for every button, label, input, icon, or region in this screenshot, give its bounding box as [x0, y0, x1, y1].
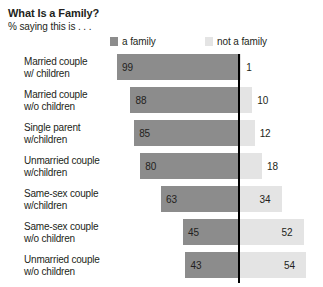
chart-container: What Is a Family? % saying this is . . .… — [0, 0, 323, 287]
bar-row: Same-sex couplew/o children4552 — [0, 219, 323, 245]
bar-row: Unmarried couplew/children8018 — [0, 153, 323, 179]
bar-value-not-a-family: 54 — [284, 260, 295, 271]
bar-not-a-family — [240, 120, 255, 146]
bar-row-label-line-2: w/children — [24, 166, 112, 178]
chart-subtitle: % saying this is . . . — [8, 21, 323, 33]
bar-row-label: Married couplew/o children — [0, 89, 112, 112]
bar-row-label: Unmarried couplew/o children — [0, 254, 112, 277]
bar-row: Married couplew/ children991 — [0, 54, 323, 80]
bar-row-label: Same-sex couplew/children — [0, 188, 112, 211]
legend-swatch-dark-icon — [110, 37, 118, 46]
bar-not-a-family — [240, 153, 262, 179]
bar-not-a-family — [240, 54, 241, 80]
bar-row-label-line-1: Single parent — [24, 122, 112, 134]
bar-value-a-family: 85 — [139, 128, 150, 139]
bar-row-label-line-1: Same-sex couple — [24, 221, 112, 233]
chart-title: What Is a Family? — [8, 7, 323, 20]
bar-a-family — [130, 87, 238, 113]
legend-item-a-family: a family — [110, 36, 156, 47]
bar-row: Same-sex couplew/children6334 — [0, 186, 323, 212]
bar-value-a-family: 80 — [145, 161, 156, 172]
bar-row-label: Single parentw/children — [0, 122, 112, 145]
bar-not-a-family — [240, 252, 306, 278]
bar-value-a-family: 63 — [166, 194, 177, 205]
bar-rows: Married couplew/ children991Married coup… — [0, 54, 323, 278]
center-axis-divider — [238, 54, 240, 283]
bar-row-label-line-1: Same-sex couple — [24, 188, 112, 200]
bar-a-family — [117, 54, 238, 80]
bar-row-label: Same-sex couplew/o children — [0, 221, 112, 244]
bar-row: Single parentw/children8512 — [0, 120, 323, 146]
bar-row-label-line-1: Married couple — [24, 89, 112, 101]
bar-value-not-a-family: 1 — [246, 62, 251, 73]
bar-row-label-line-2: w/o children — [24, 232, 112, 244]
bar-row-label: Married couplew/ children — [0, 56, 112, 79]
bar-value-not-a-family: 34 — [260, 194, 271, 205]
bar-row-label-line-1: Married couple — [24, 56, 112, 68]
bar-row: Unmarried couplew/o children4354 — [0, 252, 323, 278]
bar-row-label-line-2: w/o children — [24, 100, 112, 112]
chart-legend: a family not a family — [0, 36, 323, 50]
bar-value-a-family: 43 — [190, 260, 201, 271]
bar-row-label-line-1: Unmarried couple — [24, 254, 112, 266]
bar-row: Married couplew/o children8810 — [0, 87, 323, 113]
plot-area: Married couplew/ children991Married coup… — [0, 54, 323, 287]
bar-value-a-family: 99 — [122, 62, 133, 73]
bar-value-not-a-family: 52 — [282, 227, 293, 238]
bar-value-a-family: 88 — [135, 95, 146, 106]
bar-row-label: Unmarried couplew/children — [0, 155, 112, 178]
bar-value-not-a-family: 12 — [260, 128, 271, 139]
bar-value-not-a-family: 10 — [257, 95, 268, 106]
bar-not-a-family — [240, 219, 304, 245]
bar-value-not-a-family: 18 — [267, 161, 278, 172]
bar-not-a-family — [240, 87, 252, 113]
bar-row-label-line-2: w/ children — [24, 67, 112, 79]
bar-row-label-line-1: Unmarried couple — [24, 155, 112, 167]
legend-label-a-family: a family — [122, 36, 156, 47]
bar-row-label-line-2: w/children — [24, 133, 112, 145]
bar-row-label-line-2: w/children — [24, 199, 112, 211]
bar-row-label-line-2: w/o children — [24, 265, 112, 277]
legend-item-not-a-family: not a family — [205, 36, 267, 47]
legend-label-not-a-family: not a family — [217, 36, 267, 47]
bar-value-a-family: 45 — [188, 227, 199, 238]
legend-swatch-light-icon — [205, 37, 213, 46]
